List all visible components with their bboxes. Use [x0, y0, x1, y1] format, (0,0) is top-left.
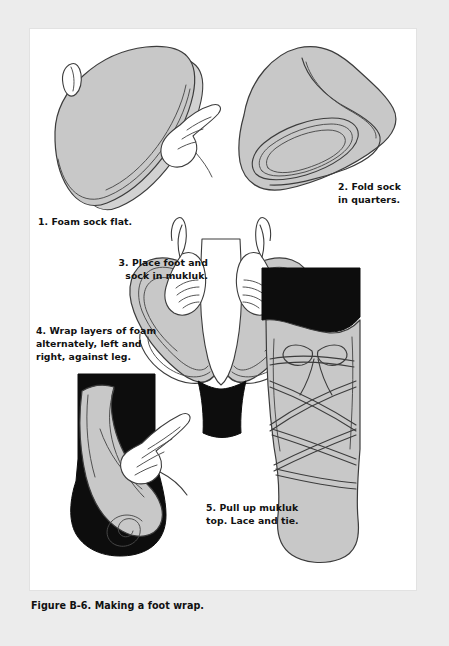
step-label-1: 1. Foam sock flat. [38, 215, 132, 228]
illustration-panel: .ln { fill: none; stroke: #3c3c3c; strok… [30, 29, 416, 590]
step-label-5: 5. Pull up mukluk top. Lace and tie. [206, 501, 299, 527]
step-label-2: 2. Fold sock in quarters. [338, 180, 401, 206]
figure-caption: Figure B-6. Making a foot wrap. [31, 600, 204, 611]
figure-page: .ln { fill: none; stroke: #3c3c3c; strok… [0, 0, 449, 646]
step-2-illustration [239, 47, 396, 191]
step-1-illustration [55, 46, 220, 209]
step-4-illustration [71, 374, 190, 556]
hand-left-step1 [62, 64, 81, 97]
step-label-3: 3. Place foot and sock in mukluk. [88, 256, 208, 282]
step-label-4: 4. Wrap layers of foam alternately, left… [36, 324, 156, 364]
